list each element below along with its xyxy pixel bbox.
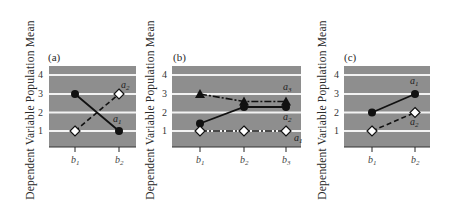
ytick-2: 2 <box>334 107 339 118</box>
ytick-4: 4 <box>334 69 339 80</box>
panel-b: 4 3 2 1 b1 b2 b3 a3 a2 a1 <box>162 66 303 167</box>
x-label-b3: b3 <box>282 154 291 167</box>
ytick-2: 2 <box>162 107 167 118</box>
ytick-2: 2 <box>38 107 43 118</box>
x-label-b2: b2 <box>115 154 124 167</box>
ytick-4: 4 <box>162 69 167 80</box>
marker-a2-b2 <box>240 103 248 111</box>
ytick-1: 1 <box>162 125 167 136</box>
panel-a: 4 3 2 1 b1 b2 a2 a1 <box>38 66 136 167</box>
panel-c-yticks: 4 3 2 1 <box>334 69 339 136</box>
x-label-b2: b2 <box>240 154 249 167</box>
x-label-b2: b2 <box>411 154 420 167</box>
ytick-3: 3 <box>334 88 339 99</box>
panel-a-yticks: 4 3 2 1 <box>38 69 43 136</box>
panel-c: 4 3 2 1 b1 b2 a1 a2 <box>334 66 430 167</box>
marker-a2-b3 <box>282 103 290 111</box>
x-label-b1: b1 <box>71 154 80 167</box>
x-label-b1: b1 <box>368 154 377 167</box>
ytick-3: 3 <box>162 88 167 99</box>
ytick-3: 3 <box>38 88 43 99</box>
panel-b-yticks: 4 3 2 1 <box>162 69 167 136</box>
marker-a1-b1 <box>71 90 79 98</box>
ytick-4: 4 <box>38 69 43 80</box>
marker-a1-b1 <box>368 109 376 117</box>
marker-a1-b2 <box>411 90 419 98</box>
marker-a1-b2 <box>115 127 123 135</box>
x-label-b1: b1 <box>196 154 205 167</box>
ytick-1: 1 <box>38 125 43 136</box>
chart-canvas: 4 3 2 1 b1 b2 a2 a1 4 <box>0 0 449 208</box>
ytick-1: 1 <box>334 125 339 136</box>
